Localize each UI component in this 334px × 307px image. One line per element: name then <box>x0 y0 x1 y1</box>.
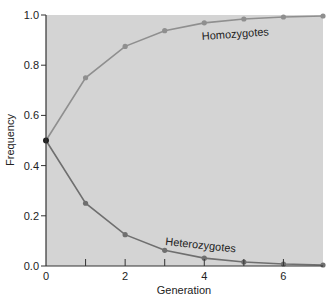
x-tick-label: 0 <box>43 270 49 282</box>
x-axis-title: Generation <box>157 284 211 296</box>
y-tick-label: 0.6 <box>24 109 39 121</box>
x-tick-label: 2 <box>122 270 128 282</box>
x-tick-label: 4 <box>201 270 207 282</box>
y-tick-label: 0.2 <box>24 210 39 222</box>
heterozygotes-point <box>162 248 167 253</box>
homozygotes-point <box>320 13 325 18</box>
homozygotes-point <box>123 44 128 49</box>
heterozygotes-point <box>83 201 88 206</box>
homozygotes-point <box>281 14 286 19</box>
homozygotes-point <box>83 75 88 80</box>
heterozygotes-point <box>123 232 128 237</box>
y-tick-label: 1.0 <box>24 9 39 21</box>
y-tick-label: 0.4 <box>24 160 39 172</box>
homozygotes-point <box>202 20 207 25</box>
y-axis-ticks: 0.00.20.40.60.81.0 <box>24 9 46 272</box>
heterozygotes-point <box>320 262 325 267</box>
x-tick-label: 6 <box>280 270 286 282</box>
homozygotes-point <box>241 16 246 21</box>
y-axis-title: Frequency <box>4 114 16 166</box>
plot-background <box>46 15 323 266</box>
y-tick-label: 0.0 <box>24 260 39 272</box>
homozygotes-point <box>162 28 167 33</box>
y-tick-label: 0.8 <box>24 59 39 71</box>
frequency-chart: 0.00.20.40.60.81.0 0246 Generation Frequ… <box>0 0 334 307</box>
